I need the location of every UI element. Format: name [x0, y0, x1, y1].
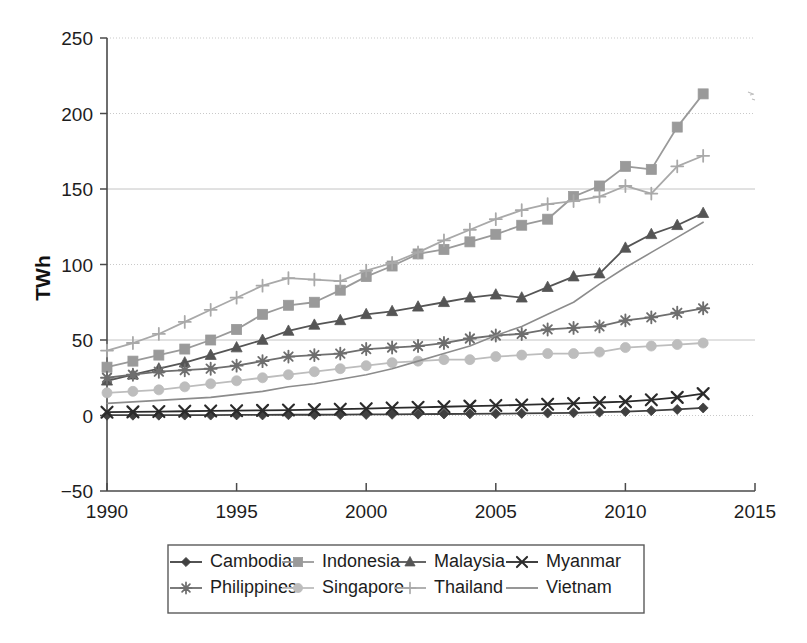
- marker-circle: [154, 385, 164, 395]
- marker-circle: [335, 364, 345, 374]
- marker-circle: [646, 341, 656, 351]
- marker-star: [438, 337, 450, 349]
- series-line-thailand: [107, 156, 703, 351]
- y-axis-title-text: TWh: [31, 255, 54, 300]
- scan-artifact: [748, 92, 755, 100]
- marker-square: [258, 309, 268, 319]
- marker-square: [594, 181, 604, 191]
- marker-plus: [308, 274, 320, 286]
- marker-square: [620, 161, 630, 171]
- series-line-indonesia: [107, 94, 703, 367]
- legend-label-cambodia: Cambodia: [210, 551, 293, 571]
- marker-star: [308, 349, 320, 361]
- marker-star: [205, 363, 217, 375]
- marker-circle: [620, 343, 630, 353]
- marker-star: [619, 314, 631, 326]
- marker-star: [568, 322, 580, 334]
- marker-star: [593, 320, 605, 332]
- marker-star: [101, 372, 113, 384]
- marker-square: [180, 344, 190, 354]
- data-series: [101, 89, 709, 420]
- legend-label-malaysia: Malaysia: [434, 551, 506, 571]
- y-axis-title: TWh: [31, 255, 54, 300]
- marker-square: [102, 362, 112, 372]
- marker-plus: [282, 272, 294, 284]
- marker-square: [154, 350, 164, 360]
- marker-circle: [309, 367, 319, 377]
- y-tick-label-0: 0: [82, 406, 93, 427]
- marker-star: [180, 582, 191, 593]
- marker-circle: [517, 350, 527, 360]
- marker-plus: [593, 191, 605, 203]
- legend-label-indonesia: Indonesia: [322, 551, 401, 571]
- marker-star: [542, 323, 554, 335]
- y-axis-tick-labels: 250200150100500−50: [61, 28, 93, 502]
- marker-plus: [619, 180, 631, 192]
- marker-circle: [543, 349, 553, 359]
- marker-star: [282, 351, 294, 363]
- marker-star: [231, 360, 243, 372]
- marker-plus: [127, 337, 139, 349]
- line-chart: 250200150100500−50 199019952000200520102…: [0, 0, 807, 643]
- marker-circle: [672, 340, 682, 350]
- marker-circle: [206, 379, 216, 389]
- y-tick-label--50: −50: [61, 481, 93, 502]
- marker-circle: [465, 355, 475, 365]
- marker-plus: [231, 292, 243, 304]
- marker-star: [127, 369, 139, 381]
- marker-circle: [439, 355, 449, 365]
- series-myanmar: [102, 388, 709, 418]
- y-tick-label-100: 100: [61, 255, 93, 276]
- chart-legend: CambodiaIndonesiaMalaysiaMyanmarPhilippi…: [168, 545, 644, 613]
- marker-plus: [101, 345, 113, 357]
- y-tick-label-50: 50: [72, 330, 93, 351]
- chart-container: 250200150100500−50 199019952000200520102…: [0, 0, 807, 643]
- marker-square: [698, 89, 708, 99]
- marker-circle: [698, 338, 708, 348]
- gridlines: [107, 38, 755, 416]
- x-tick-label-2010: 2010: [604, 501, 646, 522]
- marker-plus: [153, 328, 165, 340]
- marker-square: [491, 229, 501, 239]
- marker-star: [360, 343, 372, 355]
- marker-square: [283, 300, 293, 310]
- marker-circle: [258, 373, 268, 383]
- marker-star: [464, 332, 476, 344]
- marker-square: [128, 356, 138, 366]
- marker-star: [671, 307, 683, 319]
- marker-star: [257, 355, 269, 367]
- marker-plus: [205, 304, 217, 316]
- legend-label-myanmar: Myanmar: [546, 551, 621, 571]
- series-line-vietnam: [107, 222, 703, 403]
- series-philippines: [101, 302, 709, 383]
- marker-circle: [594, 347, 604, 357]
- marker-triangle: [698, 207, 709, 217]
- x-tick-label-1995: 1995: [215, 501, 257, 522]
- y-tick-label-150: 150: [61, 179, 93, 200]
- marker-star: [645, 311, 657, 323]
- marker-circle: [232, 376, 242, 386]
- marker-square: [465, 237, 475, 247]
- x-tick-label-2000: 2000: [345, 501, 387, 522]
- series-line-philippines: [107, 308, 703, 377]
- marker-diamond: [543, 408, 553, 418]
- y-tick-label-200: 200: [61, 104, 93, 125]
- marker-circle: [387, 358, 397, 368]
- series-malaysia: [101, 207, 708, 385]
- marker-plus: [257, 280, 269, 292]
- marker-diamond: [620, 407, 630, 417]
- legend-label-singapore: Singapore: [322, 577, 404, 597]
- legend-label-thailand: Thailand: [434, 577, 503, 597]
- marker-triangle: [620, 242, 631, 252]
- marker-diamond: [672, 404, 682, 414]
- marker-plus: [542, 198, 554, 210]
- x-tick-label-2005: 2005: [475, 501, 517, 522]
- x-tick-label-1990: 1990: [86, 501, 128, 522]
- marker-circle: [283, 370, 293, 380]
- marker-plus: [179, 316, 191, 328]
- series-thailand: [101, 150, 709, 357]
- marker-circle: [293, 583, 302, 592]
- series-line-malaysia: [107, 213, 703, 381]
- series-line-singapore: [107, 343, 703, 393]
- marker-square: [646, 164, 656, 174]
